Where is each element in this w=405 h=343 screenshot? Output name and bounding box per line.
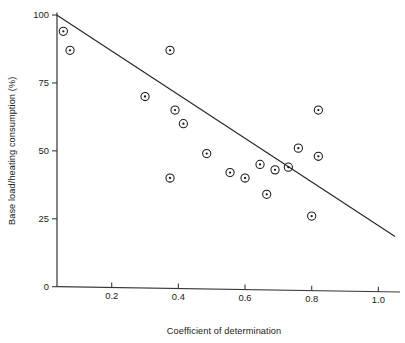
data-point	[66, 46, 74, 54]
data-point-center-dot	[266, 193, 268, 195]
data-point-center-dot	[259, 163, 261, 165]
data-point-center-dot	[169, 177, 171, 179]
data-point-center-dot	[62, 30, 64, 32]
data-point-center-dot	[317, 155, 319, 157]
data-point	[179, 120, 187, 128]
data-point	[308, 212, 316, 220]
data-point-center-dot	[244, 177, 246, 179]
axes-group	[57, 13, 400, 293]
plot-canvas: 02550751000.20.40.60.81.0 Base load/heat…	[0, 0, 405, 343]
data-point	[59, 27, 67, 35]
data-point-center-dot	[317, 109, 319, 111]
y-axis-title: Base load/heating consumption (%)	[7, 77, 17, 225]
data-point-center-dot	[182, 123, 184, 125]
data-point	[241, 174, 249, 182]
data-point-center-dot	[169, 49, 171, 51]
data-point-center-dot	[144, 95, 146, 97]
x-axis-title: Coefficient of determination	[167, 326, 281, 336]
y-tick-label: 100	[33, 9, 49, 20]
data-point-center-dot	[174, 109, 176, 111]
data-point-center-dot	[297, 147, 299, 149]
data-point	[166, 174, 174, 182]
data-point	[294, 144, 302, 152]
data-point	[256, 160, 264, 168]
data-point-center-dot	[69, 49, 71, 51]
data-point	[141, 92, 149, 100]
data-point-center-dot	[311, 215, 313, 217]
data-point	[284, 163, 292, 171]
data-point-center-dot	[206, 152, 208, 154]
y-tick-label: 25	[39, 213, 49, 224]
trend-line-group	[57, 15, 395, 236]
scatter-plot-figure: 02550751000.20.40.60.81.0 Base load/heat…	[0, 0, 405, 343]
x-tick-label: 0.8	[305, 293, 318, 304]
data-point-center-dot	[229, 171, 231, 173]
data-point	[166, 46, 174, 54]
data-points-group	[59, 27, 322, 220]
data-point	[271, 166, 279, 174]
data-point	[263, 190, 271, 198]
data-point-center-dot	[274, 169, 276, 171]
data-point	[171, 106, 179, 114]
x-tick-label: 0.4	[172, 291, 185, 302]
ticks-group	[52, 15, 378, 292]
x-tick-label: 1.0	[372, 294, 385, 305]
y-tick-label: 75	[39, 77, 49, 88]
regression-trend-line	[57, 15, 395, 236]
x-tick-label: 0.6	[239, 292, 252, 303]
data-point-center-dot	[287, 166, 289, 168]
y-tick-label: 50	[39, 145, 49, 156]
data-point	[314, 106, 322, 114]
x-tick-label: 0.2	[105, 290, 118, 301]
y-tick-label: 0	[44, 281, 49, 292]
data-point	[203, 149, 211, 157]
data-point	[226, 168, 234, 176]
data-point	[314, 152, 322, 160]
